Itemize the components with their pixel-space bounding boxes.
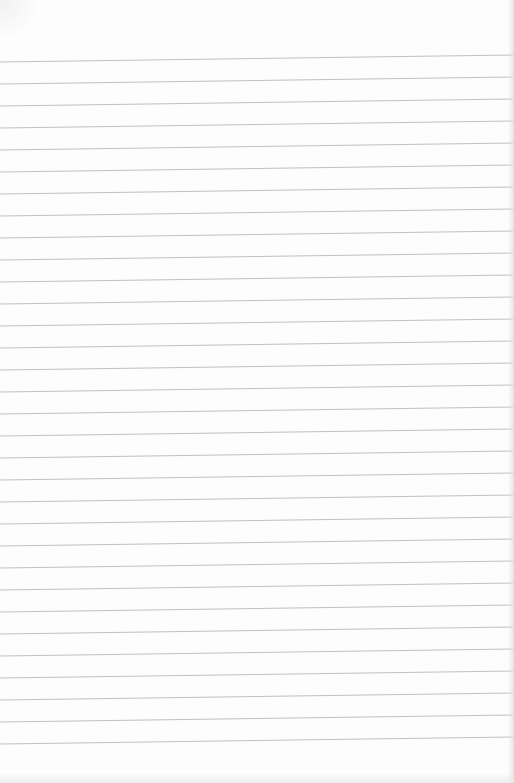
ruled-line [0, 517, 514, 524]
ruled-line [0, 583, 514, 590]
ruled-line [0, 187, 514, 194]
ruled-line [0, 319, 514, 326]
ruled-line [0, 429, 514, 436]
ruled-line [0, 539, 514, 546]
paper-corner-shadow [0, 0, 40, 40]
ruled-line [0, 407, 514, 414]
lined-paper-sheet [0, 0, 514, 783]
paper-bottom-edge-shadow [0, 773, 514, 783]
ruled-line [0, 451, 514, 458]
ruled-line [0, 649, 514, 656]
ruled-line [0, 737, 514, 744]
ruled-line [0, 77, 514, 84]
ruled-line [0, 627, 514, 634]
ruled-lines [0, 0, 514, 783]
ruled-line [0, 363, 514, 370]
ruled-line [0, 121, 514, 128]
ruled-line [0, 99, 514, 106]
ruled-line [0, 473, 514, 480]
ruled-line [0, 231, 514, 238]
ruled-line [0, 495, 514, 502]
ruled-line [0, 341, 514, 348]
ruled-line [0, 561, 514, 568]
ruled-line [0, 55, 514, 62]
ruled-line [0, 693, 514, 700]
ruled-line [0, 143, 514, 150]
ruled-line [0, 297, 514, 304]
ruled-line [0, 165, 514, 172]
ruled-line [0, 209, 514, 216]
ruled-line [0, 605, 514, 612]
ruled-line [0, 385, 514, 392]
ruled-line [0, 253, 514, 260]
paper-right-edge-shadow [508, 0, 514, 783]
ruled-line [0, 671, 514, 678]
ruled-line [0, 275, 514, 282]
ruled-line [0, 715, 514, 722]
